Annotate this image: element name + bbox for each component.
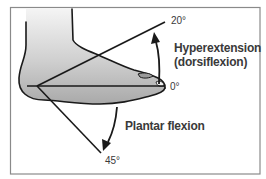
angle-label-45: 45° bbox=[105, 155, 120, 166]
ankle-rom-diagram: 20° 0° 45° Hyperextension (dorsiflexion)… bbox=[0, 0, 266, 179]
hyperextension-label: Hyperextension bbox=[174, 41, 261, 55]
toe-detail bbox=[138, 73, 153, 78]
angle-label-20: 20° bbox=[171, 15, 186, 26]
dorsiflexion-label: (dorsiflexion) bbox=[174, 55, 247, 69]
angle-label-0: 0° bbox=[170, 81, 180, 92]
plantar-flexion-label: Plantar flexion bbox=[125, 119, 205, 133]
plantar-flexion-arrow-icon bbox=[102, 107, 117, 151]
